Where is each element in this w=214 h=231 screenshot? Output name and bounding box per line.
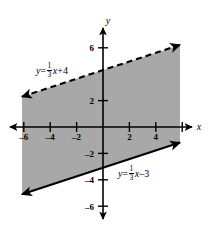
x-tick-label-neg6: –6: [18, 132, 29, 142]
equation-upper-constant: 4: [63, 65, 68, 76]
x-axis-label: x: [196, 121, 202, 132]
y-axis-label: y: [105, 15, 111, 26]
coordinate-plane: –6 –4 –2 2 4 6 2 –2 –4 –6 x y: [0, 0, 214, 231]
equation-lower-denominator: 3: [129, 174, 135, 182]
x-tick-label-neg4: –4: [45, 132, 56, 142]
equation-upper-denominator: 3: [47, 71, 53, 79]
x-tick-label-pos4: 4: [154, 132, 159, 142]
x-tick-label-pos2: 2: [127, 132, 132, 142]
x-tick-label-neg2: –2: [71, 132, 82, 142]
y-tick-label-neg4: –4: [84, 175, 95, 185]
y-tick-label-pos6: 6: [90, 43, 95, 53]
y-tick-label-pos2: 2: [90, 96, 95, 106]
y-tick-label-neg2: –2: [84, 149, 95, 159]
equation-lower-constant: 3: [144, 168, 149, 179]
equation-lower-fraction: 13: [129, 165, 135, 182]
equation-upper-fraction: 13: [47, 62, 53, 79]
equation-label-upper: y=13x+4: [36, 62, 68, 79]
y-tick-label-neg6: –6: [84, 202, 95, 212]
equation-label-lower: y=13x–3: [118, 165, 149, 182]
equation-lower-equals: =: [122, 168, 128, 179]
equation-upper-equals: =: [40, 65, 46, 76]
inequality-graph-figure: –6 –4 –2 2 4 6 2 –2 –4 –6 x y y=13x+4 y=…: [0, 0, 214, 231]
